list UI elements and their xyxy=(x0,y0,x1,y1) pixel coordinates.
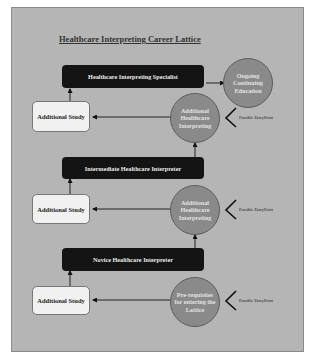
entry-point-label-1: Possible EntryPoint xyxy=(239,115,273,120)
circle-additional-interpreting-1: Additional Healthcare Interpreting xyxy=(170,93,220,143)
role-box-novice: Novice Healthcare Interpreter xyxy=(62,248,204,271)
circle-label: Additional Healthcare Interpreting xyxy=(174,107,216,129)
circle-label: Additional Healthcare Interpreting xyxy=(174,199,216,221)
role-label: Intermediate Healthcare Interpreter xyxy=(85,165,181,172)
entry-point-label-3: Possible EntryPoint xyxy=(239,298,273,303)
role-box-specialist: Healthcare Interpreting Specialist xyxy=(62,65,204,88)
circle-prerequisites: Pre-requisites for entering the Lattice xyxy=(170,277,220,327)
circle-ongoing-education: Ongoing Continuing Education xyxy=(223,58,273,108)
role-label: Healthcare Interpreting Specialist xyxy=(88,73,178,80)
study-box-2: Additional Study xyxy=(32,194,90,224)
circle-label: Pre-requisites for entering the Lattice xyxy=(174,291,216,313)
study-box-3: Additional Study xyxy=(32,286,90,315)
circle-additional-interpreting-2: Additional Healthcare Interpreting xyxy=(170,185,220,235)
circle-label: Ongoing Continuing Education xyxy=(228,72,268,94)
role-box-intermediate: Intermediate Healthcare Interpreter xyxy=(62,157,204,179)
role-label: Novice Healthcare Interpreter xyxy=(93,256,173,263)
study-label: Additional Study xyxy=(37,297,85,304)
study-label: Additional Study xyxy=(37,113,85,120)
study-box-1: Additional Study xyxy=(32,101,90,132)
entry-point-label-2: Possible EntryPoint xyxy=(239,207,273,212)
study-label: Additional Study xyxy=(37,206,85,213)
